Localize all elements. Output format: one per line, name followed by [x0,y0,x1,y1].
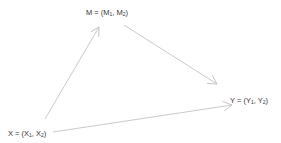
node-y-sub1: 1 [251,99,254,105]
node-y-name: Y [230,96,235,105]
edge-m-to-y [124,25,217,84]
edges-layer [0,0,281,143]
node-m-name: M [86,8,92,17]
node-x-name: X [8,129,13,138]
node-y-sub2: 2 [263,99,266,105]
node-x-sub2: 2 [41,132,44,138]
node-x-sub1: 1 [29,132,32,138]
node-y-label: Y = (Y1, Y2) [230,97,268,105]
node-x-label: X = (X1, X2) [8,130,46,138]
node-m-sub2: 2 [123,11,126,17]
node-m-label: M = (M1, M2) [86,9,128,17]
edge-x-to-m [45,27,99,119]
node-m-sub1: 1 [110,11,113,17]
edge-x-to-y [53,105,232,132]
